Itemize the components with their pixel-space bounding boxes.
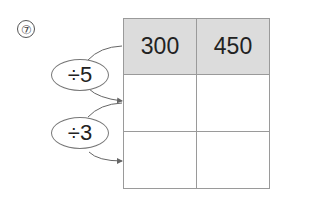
cell-r2-c2[interactable] [197, 132, 270, 189]
value-table: 300 450 [123, 18, 270, 189]
arrow-op2-in [88, 103, 122, 117]
cell-header-2: 450 [197, 19, 270, 75]
arrow-op2-out [89, 152, 122, 161]
table-row-header: 300 450 [124, 19, 270, 75]
cell-r1-c1[interactable] [124, 75, 197, 132]
operation-divide-3: ÷3 [51, 117, 109, 149]
table-row [124, 75, 270, 132]
table-row [124, 132, 270, 189]
operation-divide-5: ÷5 [51, 59, 109, 91]
cell-r2-c1[interactable] [124, 132, 197, 189]
arrow-op1-out [89, 89, 122, 101]
arrow-op1-in [88, 46, 122, 60]
cell-r1-c2[interactable] [197, 75, 270, 132]
cell-header-1: 300 [124, 19, 197, 75]
